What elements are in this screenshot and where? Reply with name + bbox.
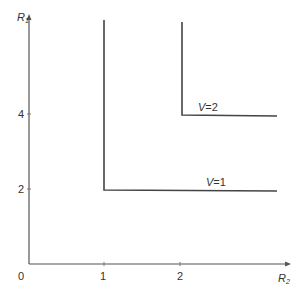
curve-v2-label: V=2	[198, 101, 218, 113]
axes	[27, 14, 292, 267]
x-axis-label: R2	[278, 272, 290, 285]
y-axis-label: R1	[17, 11, 29, 24]
origin-label: 0	[18, 270, 24, 282]
curve-v1-label: V=1	[206, 176, 226, 188]
x-tick-label-1: 1	[100, 270, 106, 282]
y-tick-label-2: 2	[18, 183, 24, 195]
x-tick-label-2: 2	[177, 270, 183, 282]
x-axis-arrow-icon	[285, 262, 291, 267]
y-tick-label-4: 4	[18, 108, 24, 120]
curve-v1-line	[104, 20, 277, 191]
curve-v2: V=2	[182, 22, 277, 116]
leontief-indifference-diagram: 1 2 2 4 0 R1 R2 V=1 V=2	[0, 0, 301, 297]
curve-v1: V=1	[104, 20, 277, 191]
chart-svg: 1 2 2 4 0 R1 R2 V=1 V=2	[0, 0, 301, 297]
curve-v2-line	[182, 22, 277, 116]
